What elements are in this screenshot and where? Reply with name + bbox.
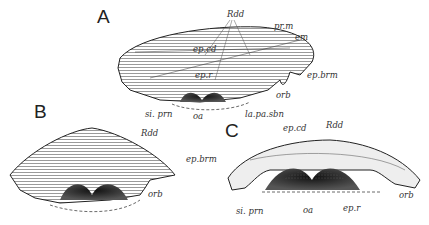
label-a-oa: oa	[193, 112, 203, 121]
anatomical-figure: A B C Rdd pr.m em ep.cd ep.r ep.brm orb …	[0, 0, 429, 225]
label-c-oa: oa	[303, 206, 313, 215]
label-c-rdd: Rdd	[326, 121, 343, 130]
label-a-lapasbn: la.pa.sbn	[245, 110, 284, 119]
label-a-siprn: si. prn	[145, 110, 172, 119]
label-a-orb: orb	[276, 91, 291, 100]
label-a-em: em	[295, 33, 308, 42]
label-c-orb: orb	[399, 191, 414, 200]
label-a-epcd: ep.cd	[193, 45, 216, 54]
panel-b-letter: B	[34, 102, 47, 121]
panel-c-drawing	[228, 140, 420, 192]
label-c-epcd: ep.cd	[283, 124, 306, 133]
panel-c-letter: C	[225, 121, 239, 140]
figure-drawings	[0, 0, 429, 225]
label-a-epbrm: ep.brm	[307, 71, 338, 80]
label-b-orb: orb	[148, 190, 163, 199]
label-c-epr: ep.r	[343, 204, 360, 213]
panel-a-letter: A	[97, 7, 110, 26]
panel-b-drawing	[10, 128, 175, 212]
label-c-epbrm: ep.brm	[186, 155, 217, 164]
label-c-siprn: si. prn	[236, 207, 263, 216]
label-b-rdd: Rdd	[141, 129, 158, 138]
label-a-rdd: Rdd	[227, 10, 244, 19]
label-a-prm: pr.m	[274, 22, 293, 31]
label-a-epr: ep.r	[195, 71, 212, 80]
